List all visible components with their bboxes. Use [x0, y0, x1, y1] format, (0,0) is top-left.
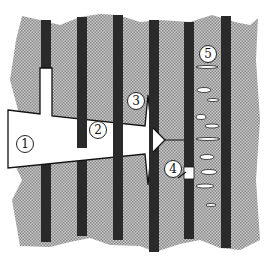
- diagram-canvas: [0, 0, 274, 264]
- label-1: 1: [16, 135, 34, 153]
- composite-crack-diagram: 1 2 3 4 5: [0, 0, 274, 264]
- label-4: 4: [164, 160, 182, 178]
- label-3: 3: [127, 92, 145, 110]
- label-2: 2: [89, 121, 107, 139]
- label-5: 5: [199, 45, 217, 63]
